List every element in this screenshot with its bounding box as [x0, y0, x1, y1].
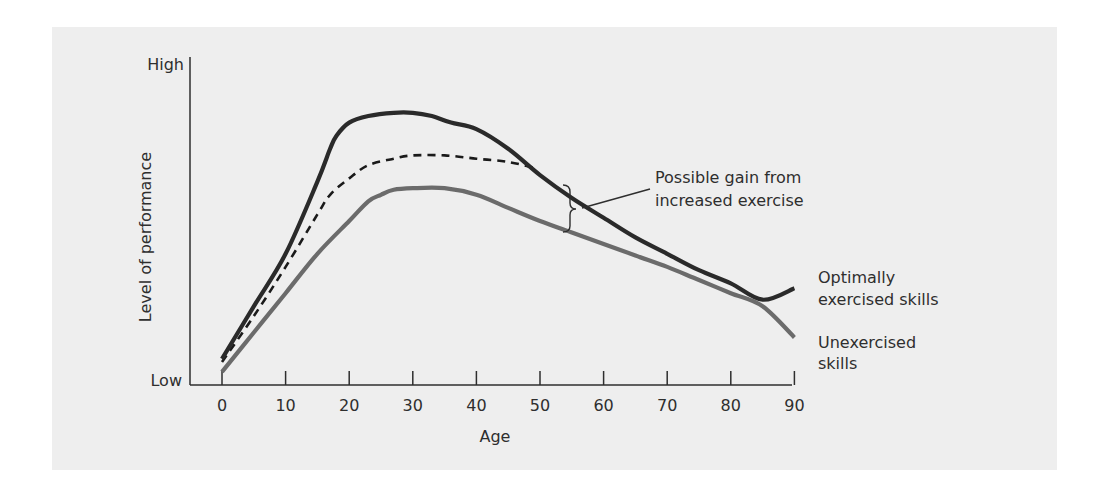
annotation-line-1: Possible gain from	[655, 168, 801, 187]
x-tick-label: 70	[657, 396, 677, 415]
x-tick-label: 80	[721, 396, 741, 415]
x-tick-label: 10	[275, 396, 295, 415]
x-axis-ticks	[222, 371, 794, 385]
series-line-possible-gain-from-increased-exercise	[222, 155, 537, 362]
annotation-leader-line	[582, 189, 650, 208]
x-axis-tick-labels: 0102030405060708090	[217, 396, 805, 415]
x-tick-label: 20	[339, 396, 359, 415]
y-axis-low-label: Low	[150, 371, 182, 390]
x-tick-label: 50	[530, 396, 550, 415]
x-tick-label: 60	[593, 396, 613, 415]
x-tick-label: 0	[217, 396, 227, 415]
series-line-unexercised-skills	[222, 188, 794, 372]
y-axis-title: Level of performance	[136, 152, 155, 322]
label-unexercised-line-1: Unexercised	[818, 333, 916, 352]
x-tick-label: 40	[466, 396, 486, 415]
x-axis-title: Age	[480, 427, 511, 446]
x-tick-label: 30	[403, 396, 423, 415]
label-unexercised-line-2: skills	[818, 354, 857, 373]
y-axis-high-label: High	[147, 55, 184, 74]
annotation-line-2: increased exercise	[655, 191, 804, 210]
line-chart: 0102030405060708090 High Low Level of pe…	[0, 0, 1095, 482]
label-optimally-line-2: exercised skills	[818, 290, 939, 309]
series-layer	[222, 112, 794, 372]
series-line-optimally-exercised-skills	[222, 112, 794, 358]
x-tick-label: 90	[784, 396, 804, 415]
label-optimally-line-1: Optimally	[818, 268, 895, 287]
